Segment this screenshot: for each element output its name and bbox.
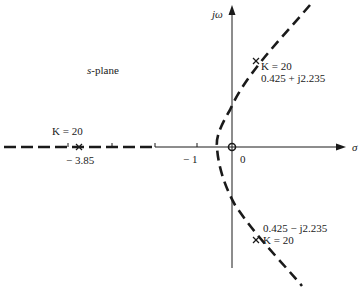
upper-pole-gain-label: K = 20 <box>261 60 292 72</box>
real-axis-arrow-icon <box>336 144 346 151</box>
lower-pole-value-label: 0.425 − j2.235 <box>263 222 327 234</box>
root-locus-plot <box>0 0 362 290</box>
plane-label: s-plane <box>87 64 119 76</box>
real-axis-label: σ <box>352 141 357 153</box>
real-pole-gain-label: K = 20 <box>52 125 83 137</box>
minus-one-tick-label: − 1 <box>183 153 197 165</box>
breakaway-tick-label: − 3.85 <box>66 154 94 166</box>
lower-pole-marker-icon <box>253 237 259 243</box>
upper-pole-value-label: 0.425 + j2.235 <box>261 72 325 84</box>
plane-label-rest: -plane <box>91 64 118 76</box>
imag-axis-label: jω <box>212 8 223 20</box>
upper-pole-marker-icon <box>253 58 259 64</box>
origin-tick-label: 0 <box>240 153 246 165</box>
imag-axis-arrow-icon <box>229 5 236 15</box>
lower-pole-gain-label: K = 20 <box>263 234 294 246</box>
